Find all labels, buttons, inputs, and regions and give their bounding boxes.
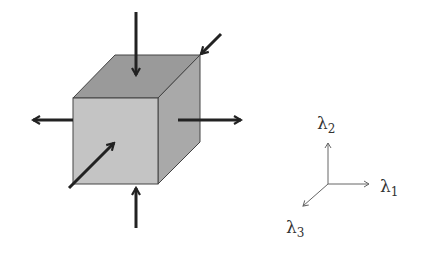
stress-cube-diagram: λ2 λ1 λ3 (0, 0, 430, 253)
label-lambda2: λ2 (317, 113, 335, 136)
label-lambda3: λ3 (286, 217, 304, 240)
arrow-back-diagonal-inward-icon (201, 34, 221, 54)
eigen-axes (303, 143, 369, 206)
label-lambda1: λ1 (380, 176, 398, 199)
axis-lambda3-icon (303, 184, 328, 206)
